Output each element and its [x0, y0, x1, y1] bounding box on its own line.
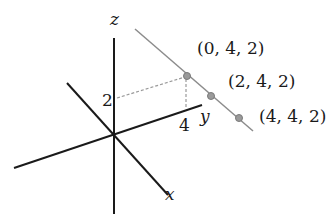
point-0-4-2 [184, 73, 191, 80]
y-tick-label: 4 [179, 115, 190, 135]
dashed-guide-z [117, 77, 185, 98]
diagram-canvas: z y x 2 4 (0, 4, 2) (2, 4, 2) (4, 4, 2) [0, 0, 329, 218]
point-2-4-2 [208, 93, 215, 100]
point-label-4-4-2: (4, 4, 2) [259, 106, 326, 126]
point-label-2-4-2: (2, 4, 2) [228, 71, 295, 91]
x-axis [67, 83, 168, 195]
point-label-0-4-2: (0, 4, 2) [197, 38, 264, 58]
y-axis-label: y [199, 106, 210, 126]
z-axis-label: z [109, 9, 120, 29]
point-4-4-2 [236, 115, 243, 122]
x-axis-label: x [165, 184, 175, 204]
z-tick-label: 2 [102, 90, 113, 110]
y-axis [14, 105, 202, 168]
